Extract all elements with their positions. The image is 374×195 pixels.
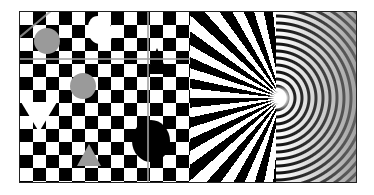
test-pattern-frame (19, 11, 357, 183)
gray-circle-top-left (34, 28, 60, 54)
black-blob (132, 120, 170, 162)
starburst-region (190, 12, 276, 183)
vertical-gray-line (147, 12, 149, 183)
zone-plate-center (268, 84, 292, 112)
horizontal-gray-line (20, 58, 190, 60)
gray-triangle (77, 144, 101, 166)
white-triangle (21, 102, 57, 132)
gray-circle-middle (70, 73, 96, 99)
black-triangle (146, 48, 168, 74)
